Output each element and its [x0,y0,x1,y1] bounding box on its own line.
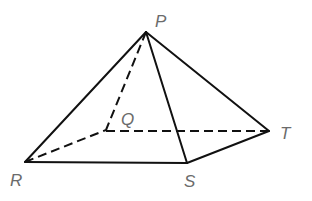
vertex-label-q: Q [121,110,134,129]
edge-pt [146,32,269,131]
edge-rs [25,162,187,163]
pyramid-diagram: P Q R S T [0,0,312,201]
edge-pr [25,32,146,162]
vertex-label-p: P [155,12,167,31]
edge-st [187,131,269,163]
vertex-label-r: R [10,171,22,190]
edge-ps [146,32,187,163]
vertex-label-t: T [280,124,292,143]
vertex-label-s: S [184,172,196,191]
edge-rq-hidden [25,130,106,162]
